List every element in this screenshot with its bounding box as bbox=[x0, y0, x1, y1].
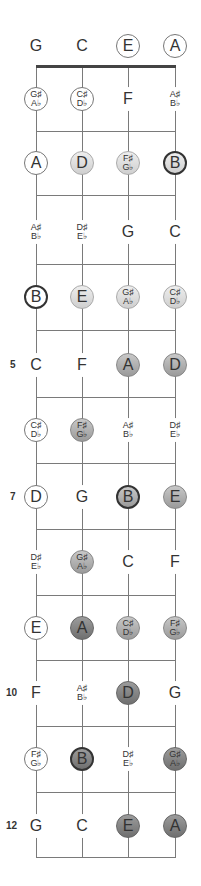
note-label: G bbox=[169, 685, 181, 701]
note-label: G bbox=[122, 224, 134, 240]
note-label: C bbox=[169, 224, 181, 240]
note-marker: A♯B♭ bbox=[70, 681, 94, 705]
note-marker: A♯B♭ bbox=[116, 418, 140, 442]
fret-line bbox=[36, 857, 176, 858]
fret-line bbox=[36, 660, 176, 661]
note-label: D bbox=[122, 685, 134, 701]
note-marker: C bbox=[70, 34, 94, 58]
fret-line bbox=[36, 726, 176, 727]
fret-line bbox=[36, 595, 176, 596]
note-marker: F bbox=[163, 550, 187, 574]
note-marker: F bbox=[116, 87, 140, 111]
note-label: D♭ bbox=[77, 99, 88, 108]
note-marker: E bbox=[116, 34, 140, 58]
note-label: D bbox=[169, 357, 181, 373]
note-label: E bbox=[31, 620, 42, 636]
note-label: E♭ bbox=[123, 759, 133, 768]
note-marker: F♯G♭ bbox=[24, 747, 48, 771]
note-label: A♭ bbox=[170, 759, 180, 768]
note-label: B bbox=[123, 489, 134, 505]
note-label: C bbox=[76, 38, 88, 54]
note-label: G bbox=[30, 818, 42, 834]
note-label: C bbox=[122, 554, 134, 570]
note-label: A bbox=[31, 155, 42, 171]
note-label: E♭ bbox=[77, 232, 87, 241]
string-line-g bbox=[36, 66, 37, 857]
note-label: A bbox=[170, 818, 181, 834]
fret-line bbox=[36, 330, 176, 331]
string-line-e bbox=[128, 66, 129, 857]
note-marker: F♯G♭ bbox=[116, 151, 140, 175]
string-line-a bbox=[175, 66, 176, 857]
note-marker: G bbox=[70, 485, 94, 509]
note-marker: F bbox=[70, 353, 94, 377]
note-label: A♭ bbox=[31, 99, 41, 108]
note-marker: D bbox=[70, 151, 94, 175]
fret-line bbox=[36, 529, 176, 530]
note-marker: B bbox=[116, 485, 140, 509]
fret-number: 5 bbox=[10, 359, 16, 370]
fret-line bbox=[36, 397, 176, 398]
note-label: F bbox=[31, 685, 41, 701]
fret-line bbox=[36, 195, 176, 196]
note-label: C bbox=[76, 818, 88, 834]
note-marker: E bbox=[70, 285, 94, 309]
ukulele-fretboard-diagram: 571012GCEAG♯A♭C♯D♭FA♯B♭ADF♯G♭BA♯B♭D♯E♭GC… bbox=[0, 0, 201, 886]
note-label: G♭ bbox=[169, 628, 180, 637]
note-label: A bbox=[123, 357, 134, 373]
note-marker: B bbox=[24, 285, 48, 309]
note-marker: E bbox=[163, 485, 187, 509]
note-label: B bbox=[31, 289, 42, 305]
note-marker: F♯G♭ bbox=[70, 418, 94, 442]
note-marker: G bbox=[163, 681, 187, 705]
note-label: F bbox=[77, 357, 87, 373]
note-marker: D♯E♭ bbox=[116, 747, 140, 771]
fret-line bbox=[36, 463, 176, 464]
note-label: A♭ bbox=[77, 562, 87, 571]
note-label: B bbox=[77, 751, 88, 767]
note-marker: A♯B♭ bbox=[24, 220, 48, 244]
note-marker: C♯D♭ bbox=[70, 87, 94, 111]
fret-line bbox=[36, 131, 176, 132]
note-marker: D bbox=[24, 485, 48, 509]
note-label: E bbox=[123, 38, 134, 54]
note-marker: C bbox=[116, 550, 140, 574]
note-marker: C♯D♭ bbox=[24, 418, 48, 442]
note-label: B♭ bbox=[170, 99, 180, 108]
note-marker: A bbox=[116, 353, 140, 377]
fret-line bbox=[36, 792, 176, 793]
note-marker: C bbox=[163, 220, 187, 244]
note-label: B♭ bbox=[31, 232, 41, 241]
note-marker: A♯B♭ bbox=[163, 87, 187, 111]
note-label: G♭ bbox=[30, 759, 41, 768]
note-label: G♭ bbox=[122, 163, 133, 172]
note-marker: G bbox=[24, 814, 48, 838]
note-label: D♭ bbox=[31, 430, 42, 439]
note-marker: D♯E♭ bbox=[70, 220, 94, 244]
note-marker: E bbox=[24, 616, 48, 640]
note-marker: F bbox=[24, 681, 48, 705]
fret-number: 12 bbox=[6, 820, 17, 831]
note-marker: D bbox=[163, 353, 187, 377]
note-marker: D♯E♭ bbox=[163, 418, 187, 442]
note-marker: G♯A♭ bbox=[116, 285, 140, 309]
note-marker: C bbox=[70, 814, 94, 838]
note-marker: E bbox=[116, 814, 140, 838]
note-marker: A bbox=[70, 616, 94, 640]
note-label: D♭ bbox=[123, 628, 134, 637]
note-marker: G♯A♭ bbox=[163, 747, 187, 771]
note-marker: A bbox=[163, 34, 187, 58]
note-marker: A bbox=[163, 814, 187, 838]
nut bbox=[36, 65, 176, 68]
note-label: D♭ bbox=[170, 297, 181, 306]
note-label: F bbox=[170, 554, 180, 570]
note-label: E bbox=[170, 489, 181, 505]
note-label: F bbox=[123, 91, 133, 107]
note-label: D bbox=[76, 155, 88, 171]
fret-number: 7 bbox=[10, 491, 16, 502]
note-marker: D♯E♭ bbox=[24, 550, 48, 574]
note-label: G bbox=[76, 489, 88, 505]
note-marker: C♯D♭ bbox=[116, 616, 140, 640]
note-marker: G♯A♭ bbox=[70, 550, 94, 574]
note-label: A bbox=[170, 38, 181, 54]
